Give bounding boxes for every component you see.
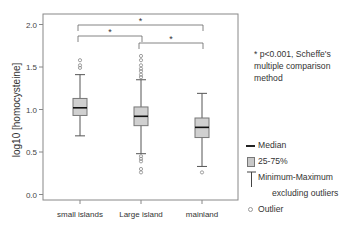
- significance-brackets: ***: [78, 16, 203, 49]
- legend-label: Outlier: [258, 202, 283, 216]
- svg-text:Large island: Large island: [119, 210, 163, 219]
- box-0: [73, 59, 87, 136]
- legend-label: 25-75%: [258, 154, 288, 168]
- svg-text:2.0: 2.0: [26, 21, 38, 30]
- significance-note: * p<0.001, Scheffe's multiple comparison…: [254, 48, 350, 84]
- box-2: [195, 93, 209, 174]
- y-axis-label: log10 [homocysteine]: [11, 63, 22, 158]
- plot-axes: 0.00.51.01.52.0small islandsLarge island…: [26, 14, 238, 219]
- median-line-icon: [246, 145, 255, 147]
- box-1: [134, 54, 148, 174]
- outlier-circle-icon: [248, 207, 253, 212]
- box-series: [73, 54, 209, 174]
- svg-text:*: *: [108, 27, 112, 37]
- svg-text:1.5: 1.5: [26, 63, 38, 72]
- box-icon: [247, 157, 255, 167]
- whisker-icon: [246, 171, 257, 187]
- svg-text:*: *: [139, 16, 143, 26]
- svg-text:0.0: 0.0: [26, 191, 38, 200]
- svg-text:mainland: mainland: [186, 210, 218, 219]
- svg-text:*: *: [169, 34, 173, 44]
- legend-label: Median: [258, 138, 286, 152]
- svg-text:0.5: 0.5: [26, 148, 38, 157]
- svg-text:small islands: small islands: [57, 210, 103, 219]
- svg-text:1.0: 1.0: [26, 106, 38, 115]
- legend-label: Minimum-Maximum: [258, 170, 333, 184]
- legend-sublabel: excluding outliers: [272, 186, 338, 200]
